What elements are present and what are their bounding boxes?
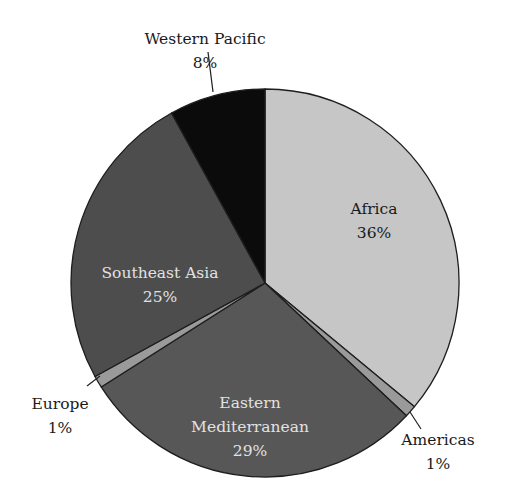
- label-southeast-asia-name: Southeast Asia: [101, 264, 218, 282]
- label-eastern-mediterranean-pct: 29%: [233, 442, 267, 460]
- label-southeast-asia-pct: 25%: [143, 288, 177, 306]
- label-europe-name: Europe: [31, 395, 88, 413]
- label-americas-pct: 1%: [426, 455, 451, 473]
- label-western-pacific: Western Pacific 8%: [144, 30, 265, 72]
- label-eastern-mediterranean-line2: Mediterranean: [191, 418, 309, 436]
- leader-line-americas: [410, 412, 421, 429]
- pie-chart: Western Pacific 8% Africa 36% Southeast …: [0, 0, 523, 502]
- label-eastern-mediterranean-line1: Eastern: [219, 394, 280, 412]
- label-western-pacific-pct: 8%: [193, 54, 218, 72]
- label-americas-name: Americas: [400, 431, 474, 449]
- label-africa-pct: 36%: [357, 224, 391, 242]
- label-europe-pct: 1%: [48, 419, 73, 437]
- label-americas: Americas 1%: [400, 431, 474, 473]
- label-western-pacific-name: Western Pacific: [144, 30, 265, 48]
- label-europe: Europe 1%: [31, 395, 88, 437]
- label-africa-name: Africa: [350, 200, 398, 218]
